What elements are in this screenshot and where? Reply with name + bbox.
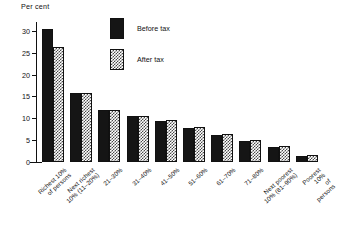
bar-before-tax [296,156,307,162]
bar-before-tax [155,121,166,162]
legend-label-before-tax: Before tax [137,24,170,33]
x-category-label: 21–30% [102,166,124,187]
y-tick-mark [32,31,37,32]
legend-item-after-tax: After tax [110,49,164,70]
bar-before-tax [268,147,279,162]
y-tick-mark [32,75,37,76]
y-tick-label: 15 [22,92,30,101]
bar-chart: Per cent 051015202530 Richest 10% of per… [0,0,346,232]
y-axis-title: Per cent [21,2,49,11]
y-tick-mark [32,140,37,141]
bar-after-tax [222,134,233,162]
bar-before-tax [42,29,53,162]
y-tick-label: 20 [22,70,30,79]
bar-group [155,120,177,162]
y-tick-label: 0 [26,158,30,167]
x-category-label: 71–80% [243,166,265,187]
x-category-label: 41–50% [158,166,180,187]
bar-after-tax [194,127,205,162]
bar-before-tax [211,135,222,162]
y-tick-label: 25 [22,48,30,57]
bar-after-tax [279,146,290,162]
bar-group [70,93,92,162]
bar-after-tax [250,140,261,162]
bar-group [296,155,318,162]
y-tick-label: 10 [22,114,30,123]
bar-before-tax [70,93,81,162]
legend-label-after-tax: After tax [137,55,164,64]
bar-group [211,134,233,162]
x-category-label: 61–70% [215,166,237,187]
bar-after-tax [109,110,120,162]
legend-swatch-before-tax [110,18,124,39]
bar-group [42,29,64,162]
legend-swatch-after-tax [110,49,124,70]
bar-group [127,116,149,162]
bar-before-tax [98,110,109,162]
x-category-label: 51–60% [187,166,209,187]
legend-item-before-tax: Before tax [110,18,170,39]
x-category-label: 31–40% [130,166,152,187]
bar-after-tax [81,93,92,162]
bar-group [183,127,205,162]
bar-before-tax [239,141,250,162]
bar-before-tax [183,128,194,162]
bar-group [268,146,290,162]
y-tick-mark [32,96,37,97]
plot-area: 051015202530 [36,22,336,162]
bar-before-tax [127,116,138,162]
bar-after-tax [307,155,318,162]
y-tick-mark [32,118,37,119]
y-tick-mark [32,162,37,163]
y-tick-label: 30 [22,26,30,35]
x-category-label: Poorest 10% of persons [295,166,337,208]
bar-group [239,140,261,162]
bar-group [98,110,120,162]
bar-after-tax [166,120,177,162]
y-tick-mark [32,53,37,54]
bar-after-tax [138,116,149,162]
bar-after-tax [53,47,64,163]
y-tick-label: 5 [26,136,30,145]
